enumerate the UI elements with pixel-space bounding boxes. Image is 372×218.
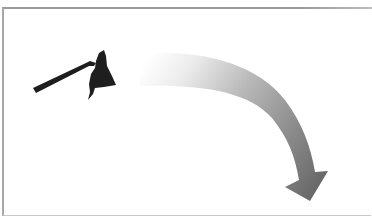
illustration-canvas bbox=[0, 0, 372, 218]
hoe-blade bbox=[88, 50, 116, 100]
hoe-icon bbox=[33, 50, 116, 100]
hoe-handle bbox=[33, 61, 96, 93]
curved-arrow-icon bbox=[140, 53, 328, 201]
arrow-body bbox=[140, 53, 328, 201]
